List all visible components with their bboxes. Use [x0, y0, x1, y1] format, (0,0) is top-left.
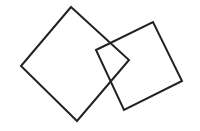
- diagram-canvas: [0, 0, 200, 131]
- background: [0, 0, 200, 131]
